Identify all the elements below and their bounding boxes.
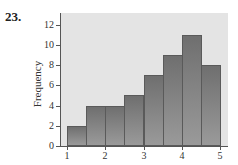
problem-number: 23. bbox=[5, 9, 21, 25]
histogram-bar bbox=[201, 65, 221, 146]
histogram-bar bbox=[182, 35, 202, 146]
x-tick-label: 1 bbox=[60, 150, 74, 161]
histogram-bar bbox=[124, 95, 144, 146]
y-tick-mark bbox=[56, 25, 60, 26]
y-tick-mark bbox=[56, 65, 60, 66]
y-tick-mark bbox=[56, 106, 60, 107]
y-tick-mark bbox=[56, 85, 60, 86]
y-tick-mark bbox=[56, 45, 60, 46]
histogram-bar bbox=[67, 126, 87, 146]
y-tick-label: 0 bbox=[40, 141, 54, 151]
histogram-bar bbox=[163, 55, 183, 146]
y-tick-mark bbox=[56, 146, 60, 147]
y-axis-title: Frequency bbox=[31, 49, 43, 119]
y-tick-label: 2 bbox=[40, 121, 54, 131]
y-tick-label: 12 bbox=[40, 20, 54, 30]
x-tick-label: 5 bbox=[213, 150, 227, 161]
x-tick-label: 2 bbox=[98, 150, 112, 161]
y-tick-mark bbox=[56, 126, 60, 127]
histogram-bar bbox=[86, 106, 106, 146]
histogram-bar bbox=[105, 106, 125, 146]
y-axis bbox=[60, 13, 61, 147]
x-tick-label: 3 bbox=[137, 150, 151, 161]
x-tick-label: 4 bbox=[175, 150, 189, 161]
histogram-bar bbox=[144, 75, 164, 146]
